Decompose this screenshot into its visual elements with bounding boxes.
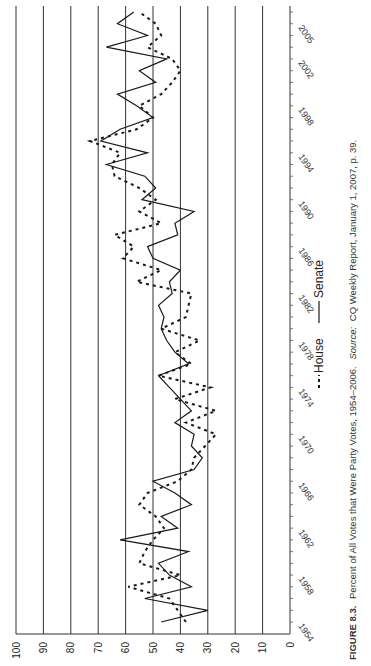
year-tick-label: 2002 (296, 58, 316, 80)
svg-text:FIGURE 8.3. Percent of A: FIGURE 8.3. Percent of All Votes that We… (347, 140, 358, 660)
year-tick-label: 1970 (296, 434, 316, 456)
figure-caption: FIGURE 8.3. Percent of All Votes that We… (347, 140, 358, 660)
gridlines (16, 6, 290, 634)
year-tick-label: 1998 (296, 105, 316, 127)
legend-house-label: House (312, 338, 326, 373)
year-tick-label: 1962 (296, 528, 316, 550)
value-tick-label: 10 (257, 642, 268, 654)
value-tick-label: 30 (202, 642, 213, 654)
year-tick-label: 1974 (296, 387, 316, 409)
value-tick-label: 20 (230, 642, 241, 654)
value-tick-label: 100 (11, 642, 22, 659)
value-tick-label: 70 (93, 642, 104, 654)
figure-label: FIGURE 8.3. (347, 606, 358, 660)
source-label: Source: (347, 327, 358, 360)
year-tick-label: 1994 (296, 152, 316, 174)
party-votes-chart: 0102030405060708090100 19541958196219661… (0, 0, 371, 666)
value-tick-label: 0 (285, 642, 296, 648)
year-tick-label: 1958 (296, 574, 316, 596)
value-tick-label: 80 (65, 642, 76, 654)
year-tick-label: 1990 (296, 199, 316, 221)
legend: House Senate (312, 260, 326, 388)
year-tick-label: 1966 (296, 481, 316, 503)
senate-series-line (101, 12, 208, 622)
value-tick-label: 50 (148, 642, 159, 654)
figure-title: Percent of All Votes that Were Party Vot… (347, 366, 358, 599)
value-axis-labels: 0102030405060708090100 (11, 642, 296, 659)
legend-senate-label: Senate (312, 260, 326, 298)
year-axis: 1954195819621966197019741978198219861990… (290, 6, 316, 644)
value-tick-label: 60 (120, 642, 131, 654)
source-text: CQ Weekly Report, January 1, 2007, p. 39… (347, 140, 358, 321)
year-tick-label: 2005 (296, 23, 316, 45)
value-tick-label: 40 (175, 642, 186, 654)
year-tick-label: 1954 (296, 621, 316, 643)
value-tick-label: 90 (38, 642, 49, 654)
